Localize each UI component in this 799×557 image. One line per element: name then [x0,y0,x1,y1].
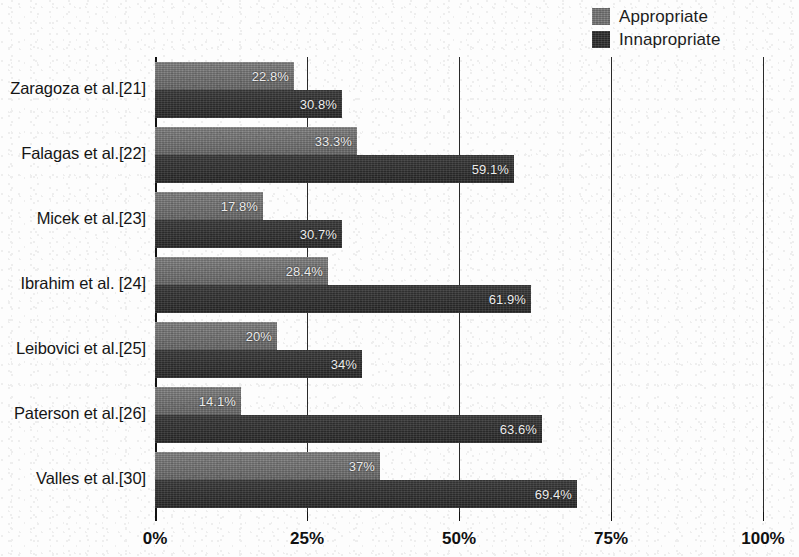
x-tick-mark-100% [763,512,764,521]
bar-value-label: 28.4% [286,264,323,279]
category-label-3: Ibrahim et al. [24] [0,274,146,293]
bar-value-label: 59.1% [472,162,509,177]
category-label-5: Paterson et al.[26] [0,404,146,423]
legend-label-appropriate: Appropriate [619,7,708,27]
legend-item-appropriate: Appropriate [592,6,720,27]
bar-innapropriate-1: 59.1% [155,155,514,183]
x-tick-mark-0 [155,512,157,521]
x-tick-label-75%: 75% [594,529,628,549]
chart-legend: Appropriate Innapropriate [592,6,720,50]
category-label-6: Valles et al.[30] [0,469,146,488]
bar-group-6: 37%69.4% [155,452,763,508]
legend-item-innapropriate: Innapropriate [592,29,720,50]
bar-chart-figure: Appropriate Innapropriate Zaragoza et al… [0,0,799,557]
bar-value-label: 14.1% [199,394,236,409]
legend-label-innapropriate: Innapropriate [619,30,720,50]
bar-group-2: 17.8%30.7% [155,192,763,248]
bar-appropriate-5: 14.1% [155,387,241,415]
bar-value-label: 30.7% [300,227,337,242]
bar-innapropriate-4: 34% [155,350,362,378]
bar-value-label: 34% [331,357,357,372]
bar-innapropriate-6: 69.4% [155,480,577,508]
bar-innapropriate-2: 30.7% [155,220,342,248]
bar-value-label: 33.3% [315,134,352,149]
bar-group-5: 14.1%63.6% [155,387,763,443]
x-tick-label-0%: 0% [143,529,168,549]
bar-group-3: 28.4%61.9% [155,257,763,313]
bar-value-label: 63.6% [500,422,537,437]
bar-appropriate-3: 28.4% [155,257,328,285]
bar-appropriate-1: 33.3% [155,127,357,155]
bar-appropriate-4: 20% [155,322,277,350]
category-label-2: Micek et al.[23] [0,209,146,228]
gridline-100% [763,57,764,512]
x-tick-label-100%: 100% [741,529,784,549]
bar-value-label: 69.4% [535,487,572,502]
bar-value-label: 61.9% [489,292,526,307]
bar-value-label: 30.8% [300,97,337,112]
bar-appropriate-6: 37% [155,452,380,480]
bar-group-4: 20%34% [155,322,763,378]
plot-area: Zaragoza et al.[21]Falagas et al.[22]Mic… [155,57,763,512]
legend-swatch-innapropriate [592,31,610,48]
bar-value-label: 20% [246,329,272,344]
bar-innapropriate-3: 61.9% [155,285,531,313]
bar-appropriate-2: 17.8% [155,192,263,220]
bar-appropriate-0: 22.8% [155,62,294,90]
bar-value-label: 17.8% [221,199,258,214]
bar-innapropriate-5: 63.6% [155,415,542,443]
y-axis-category-labels: Zaragoza et al.[21]Falagas et al.[22]Mic… [0,57,155,512]
bar-innapropriate-0: 30.8% [155,90,342,118]
x-tick-label-25%: 25% [290,529,324,549]
x-tick-mark-25% [307,512,308,521]
x-tick-label-50%: 50% [442,529,476,549]
legend-swatch-appropriate [592,8,610,25]
x-tick-mark-75% [611,512,612,521]
category-label-1: Falagas et al.[22] [0,144,146,163]
bar-value-label: 22.8% [252,69,289,84]
bar-value-label: 37% [349,459,375,474]
category-label-0: Zaragoza et al.[21] [0,79,146,98]
bar-group-0: 22.8%30.8% [155,62,763,118]
category-label-4: Leibovici et al.[25] [0,339,146,358]
bar-group-1: 33.3%59.1% [155,127,763,183]
x-tick-mark-50% [459,512,460,521]
